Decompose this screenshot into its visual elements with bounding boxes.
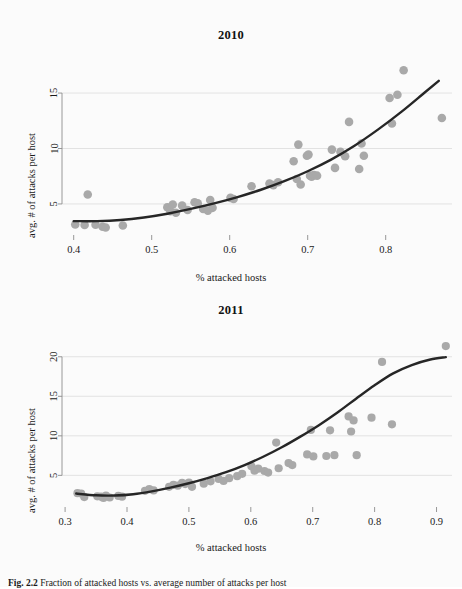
data-point [438, 114, 447, 123]
x-tick-label: 0.3 [59, 516, 72, 527]
x-axis-label-2010: % attacked hosts [0, 272, 462, 283]
y-tick-label: 10 [49, 431, 60, 442]
y-tick-label: 5 [49, 201, 60, 206]
data-point [326, 426, 334, 434]
data-point [442, 342, 450, 350]
data-point [345, 118, 354, 127]
data-point [294, 140, 303, 149]
x-axis-label-2011: % attacked hosts [0, 542, 462, 553]
data-point [101, 223, 110, 232]
chart-panel-2010: 2010 avg. # of attacks per host 510150.4… [0, 0, 462, 295]
figure-caption-text: Fraction of attacked hosts vs. average n… [40, 578, 286, 588]
data-point [225, 474, 233, 482]
scatter-plot-2011: 51015200.30.40.50.60.70.80.9 [0, 323, 462, 535]
data-point [275, 464, 283, 472]
data-point [296, 180, 305, 189]
data-point [378, 358, 386, 366]
data-point [347, 427, 355, 435]
data-point [304, 150, 313, 159]
y-tick-label: 15 [49, 391, 60, 402]
data-point [313, 171, 322, 180]
x-tick-label: 0.6 [223, 244, 236, 255]
x-tick-label: 0.4 [120, 516, 134, 527]
x-tick-label: 0.8 [379, 244, 392, 255]
data-point [309, 452, 317, 460]
y-tick-label: 20 [49, 352, 60, 363]
data-point [353, 451, 361, 459]
data-point [393, 90, 402, 99]
x-tick-label: 0.9 [430, 516, 443, 527]
data-point [119, 221, 128, 230]
data-point [264, 469, 272, 477]
data-point [272, 438, 280, 446]
x-tick-label: 0.5 [182, 516, 195, 527]
data-point [330, 451, 338, 459]
chart-title-2010: 2010 [0, 28, 462, 43]
data-point [289, 157, 298, 166]
data-point [399, 66, 408, 75]
figure-caption-label: Fig. 2.2 [8, 578, 38, 588]
x-tick-label: 0.6 [244, 516, 257, 527]
x-tick-label: 0.5 [145, 244, 158, 255]
data-point [388, 420, 396, 428]
scatter-plot-2010: 510150.40.50.60.70.8 [0, 48, 462, 263]
data-point [83, 190, 92, 199]
x-tick-label: 0.4 [67, 244, 81, 255]
y-tick-label: 15 [49, 88, 60, 99]
x-tick-label: 0.7 [301, 244, 314, 255]
data-point [247, 182, 256, 191]
fit-curve [74, 81, 439, 221]
data-point [238, 470, 246, 478]
chart-title-2011: 2011 [0, 303, 462, 318]
data-point [385, 94, 394, 103]
x-tick-label: 0.7 [306, 516, 319, 527]
y-tick-label: 5 [49, 473, 60, 478]
x-tick-label: 0.8 [368, 516, 381, 527]
data-point [322, 452, 330, 460]
chart-panel-2011: 2011 avg. # of attacks per host 51015200… [0, 295, 462, 560]
data-point [349, 416, 357, 424]
data-point [331, 164, 340, 173]
y-tick-label: 10 [49, 143, 60, 154]
data-point [355, 165, 364, 174]
figure-caption: Fig. 2.2 Fraction of attacked hosts vs. … [8, 578, 458, 589]
data-point [328, 145, 337, 154]
data-point [367, 414, 375, 422]
data-point [360, 151, 369, 160]
data-point [288, 461, 296, 469]
data-point [168, 200, 177, 209]
